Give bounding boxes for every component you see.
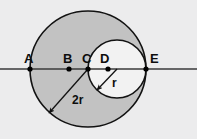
point-label-d: D bbox=[100, 51, 109, 66]
point-label-e: E bbox=[150, 51, 159, 66]
point-dot-e bbox=[143, 66, 148, 71]
measure-label-radius-r: r bbox=[112, 76, 117, 90]
figure-canvas: ABCDE 2rr bbox=[0, 0, 197, 139]
point-label-a: A bbox=[24, 51, 34, 66]
geometry-figure: ABCDE 2rr bbox=[0, 0, 197, 139]
measure-label-radius-2r: 2r bbox=[72, 93, 84, 107]
point-dot-d bbox=[105, 66, 110, 71]
point-dot-a bbox=[27, 66, 32, 71]
point-dot-c bbox=[85, 66, 90, 71]
point-label-b: B bbox=[63, 51, 72, 66]
point-dot-b bbox=[66, 66, 71, 71]
point-label-c: C bbox=[82, 51, 92, 66]
